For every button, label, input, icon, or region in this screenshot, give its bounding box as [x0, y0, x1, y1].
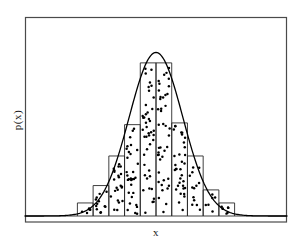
scatter-point — [96, 208, 98, 210]
scatter-point — [191, 203, 193, 205]
scatter-point — [168, 134, 170, 136]
scatter-point — [184, 137, 186, 139]
scatter-point — [147, 86, 149, 88]
scatter-point — [152, 96, 154, 98]
scatter-point — [166, 146, 168, 148]
scatter-point — [146, 111, 148, 113]
scatter-point — [168, 185, 170, 187]
scatter-point — [182, 180, 184, 182]
scatter-point — [151, 108, 153, 110]
scatter-point — [150, 69, 152, 71]
scatter-point — [126, 157, 128, 159]
scatter-point — [137, 163, 139, 165]
scatter-point — [184, 146, 186, 148]
scatter-point — [161, 189, 163, 191]
scatter-point — [99, 212, 101, 214]
scatter-point — [130, 177, 132, 179]
scatter-point — [158, 147, 160, 149]
scatter-point — [152, 139, 154, 141]
scatter-point — [151, 201, 153, 203]
scatter-point — [148, 89, 150, 91]
scatter-point — [142, 189, 144, 191]
scatter-point — [125, 147, 127, 149]
scatter-point — [129, 136, 131, 138]
scatter-point — [149, 120, 151, 122]
scatter-point — [199, 208, 201, 210]
scatter-point — [178, 181, 180, 183]
scatter-point — [162, 211, 164, 213]
scatter-point — [146, 148, 148, 150]
scatter-point — [148, 187, 150, 189]
scatter-point — [159, 158, 161, 160]
scatter-point — [214, 196, 216, 198]
scatter-point — [142, 129, 144, 131]
scatter-point — [151, 188, 153, 190]
scatter-point — [177, 185, 179, 187]
scatter-point — [134, 177, 136, 179]
scatter-point — [162, 123, 164, 125]
scatter-point — [179, 168, 181, 170]
scatter-point — [95, 198, 97, 200]
scatter-point — [159, 98, 161, 100]
scatter-point — [160, 108, 162, 110]
scatter-point — [128, 151, 130, 153]
scatter-point — [143, 164, 145, 166]
scatter-point — [118, 163, 120, 165]
scatter-point — [184, 187, 186, 189]
scatter-point — [193, 187, 195, 189]
scatter-point — [193, 199, 195, 201]
scatter-point — [126, 174, 128, 176]
scatter-point — [173, 155, 175, 157]
scatter-point — [179, 193, 181, 195]
scatter-point — [132, 192, 134, 194]
scatter-point — [211, 193, 213, 195]
scatter-point — [118, 201, 120, 203]
scatter-point — [145, 126, 147, 128]
scatter-point — [181, 174, 183, 176]
scatter-point — [81, 210, 83, 212]
scatter-point — [179, 177, 181, 179]
scatter-point — [166, 187, 168, 189]
scatter-point — [157, 154, 159, 156]
scatter-point — [189, 174, 191, 176]
scatter-point — [116, 209, 118, 211]
scatter-point — [143, 136, 145, 138]
scatter-point — [207, 203, 209, 205]
scatter-point — [136, 206, 138, 208]
scatter-point — [168, 78, 170, 80]
scatter-point — [114, 190, 116, 192]
scatter-point — [168, 85, 170, 87]
scatter-point — [183, 195, 185, 197]
scatter-point — [158, 89, 160, 91]
scatter-point — [150, 85, 152, 87]
distribution-plot: x p(x) — [0, 0, 302, 251]
scatter-point — [150, 131, 152, 133]
scatter-point — [121, 185, 123, 187]
scatter-point — [129, 153, 131, 155]
scatter-point — [149, 81, 151, 83]
scatter-point — [149, 175, 151, 177]
scatter-point — [163, 73, 165, 75]
scatter-point — [96, 203, 98, 205]
scatter-point — [158, 124, 160, 126]
scatter-point — [120, 173, 122, 175]
scatter-point — [95, 205, 97, 207]
scatter-point — [161, 156, 163, 158]
scatter-point — [157, 151, 159, 153]
scatter-point — [149, 143, 151, 145]
scatter-point — [118, 176, 120, 178]
scatter-point — [157, 80, 159, 82]
scatter-point — [158, 83, 160, 85]
scatter-point — [144, 67, 146, 69]
scatter-point — [163, 179, 165, 181]
scatter-point — [158, 197, 160, 199]
scatter-point — [130, 144, 132, 146]
scatter-point — [158, 171, 160, 173]
scatter-point — [174, 125, 176, 127]
scatter-point — [157, 181, 159, 183]
figure-container: x p(x) — [0, 0, 302, 251]
scatter-point — [183, 162, 185, 164]
scatter-point — [181, 209, 183, 211]
scatter-point — [153, 198, 155, 200]
scatter-point — [225, 212, 227, 214]
